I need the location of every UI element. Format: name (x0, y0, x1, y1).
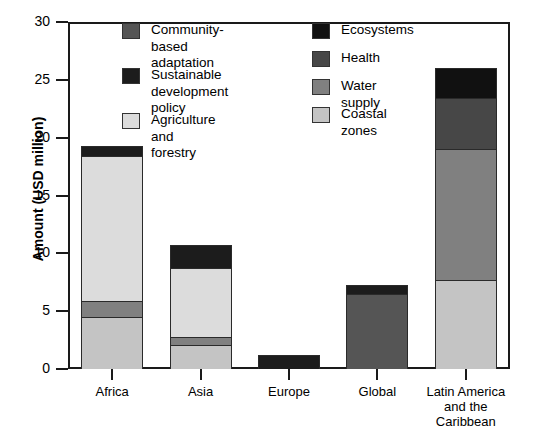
bar-latin-america-and-the-caribbean[interactable] (435, 68, 497, 369)
y-tick-label: 20 (10, 129, 50, 145)
y-tick-mark (56, 21, 68, 23)
legend-swatch-icon (122, 113, 140, 129)
x-tick-label: Latin America and the Caribbean (406, 384, 526, 429)
legend-item[interactable]: Community-based adaptation (122, 22, 224, 72)
y-tick-mark (56, 195, 68, 197)
legend-item[interactable]: Ecosystems (312, 22, 414, 39)
y-tick-mark (56, 368, 68, 370)
legend-item[interactable]: Sustainable development policy (122, 67, 228, 117)
legend-item-label: Health (341, 50, 380, 67)
bar-segment-sustainable-development-policy (170, 245, 232, 268)
y-tick-mark (56, 137, 68, 139)
bar-segment-agriculture-and-forestry (170, 268, 232, 336)
bar-segment-water-supply (435, 149, 497, 280)
x-tick-mark (288, 369, 290, 380)
bar-segment-community-based-adaptation (346, 294, 408, 369)
bar-segment-coastal-zones (170, 345, 232, 369)
legend-item[interactable]: Health (312, 50, 380, 67)
bar-segment-sustainable-development-policy (346, 285, 408, 294)
legend-item[interactable]: Coastal zones (312, 106, 387, 139)
legend-item-label: Agriculture and forestry (151, 112, 216, 162)
legend-swatch-icon (312, 107, 330, 123)
bar-africa[interactable] (81, 146, 143, 369)
x-tick-mark (465, 369, 467, 380)
legend-swatch-icon (122, 23, 140, 39)
y-tick-label: 30 (10, 13, 50, 29)
legend-item-label: Community-based adaptation (151, 22, 224, 72)
y-tick-label: 10 (10, 244, 50, 260)
y-tick-mark (56, 252, 68, 254)
x-tick-mark (200, 369, 202, 380)
bar-asia[interactable] (170, 253, 232, 369)
bar-segment-sustainable-development-policy (258, 355, 320, 369)
y-tick-mark (56, 79, 68, 81)
bar-global[interactable] (346, 285, 408, 369)
bar-segment-health (435, 98, 497, 149)
y-tick-label: 0 (10, 360, 50, 376)
y-tick-label: 25 (10, 71, 50, 87)
x-tick-mark (376, 369, 378, 380)
bar-segment-coastal-zones (435, 280, 497, 369)
bar-segment-coastal-zones (81, 317, 143, 369)
x-tick-mark (111, 369, 113, 380)
y-tick-label: 15 (10, 187, 50, 203)
legend-item[interactable]: Agriculture and forestry (122, 112, 216, 162)
legend-item-label: Coastal zones (341, 106, 387, 139)
bar-europe[interactable] (258, 355, 320, 369)
legend-swatch-icon (122, 68, 140, 84)
bar-segment-water-supply (81, 301, 143, 317)
legend-swatch-icon (312, 51, 330, 67)
bar-segment-water-supply (170, 337, 232, 345)
legend-item-label: Ecosystems (341, 22, 414, 39)
y-tick-label: 5 (10, 302, 50, 318)
y-tick-mark (56, 310, 68, 312)
bar-segment-ecosystems (435, 68, 497, 98)
stacked-bar-chart: Amount (USD million) 051015202530 Africa… (0, 0, 545, 431)
legend-swatch-icon (312, 79, 330, 95)
legend-item-label: Sustainable development policy (151, 67, 228, 117)
bar-segment-agriculture-and-forestry (81, 156, 143, 301)
legend-swatch-icon (312, 23, 330, 39)
